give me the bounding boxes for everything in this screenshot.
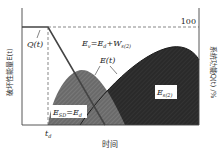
- x-axis-label: 时间: [102, 139, 118, 149]
- td-tick-label: td: [45, 129, 51, 139]
- et-pointer-left: [95, 66, 100, 75]
- qt-label: Q(t): [27, 40, 43, 49]
- y-left-axis-label: 破坏性能量E(t): [5, 48, 14, 96]
- y-right-axis-label: 系统功能Q(t) /%: [209, 46, 218, 99]
- energy-function-diagram: 100 Q(t) Ev=Ed+Ws(2) E(t) ESD=Ed Es(2) t…: [0, 0, 222, 150]
- esd-label: ESD=Ed: [52, 108, 82, 118]
- et-pointer-right: [110, 66, 117, 74]
- ev-label: Ev=Ed+Ws(2): [81, 39, 131, 49]
- y-right-tick-100: 100: [181, 17, 196, 26]
- et-label: E(t): [99, 56, 115, 65]
- qt-pointer: [37, 30, 40, 38]
